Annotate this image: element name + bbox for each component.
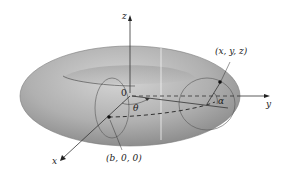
origin-label: 0 xyxy=(121,89,127,98)
alpha-label: α xyxy=(218,97,224,106)
z-axis-label: z xyxy=(122,12,127,21)
y-axis-label: y xyxy=(266,100,271,109)
z-axis-arrow-icon xyxy=(128,15,132,21)
torus-figure: z y x 0 θ α (x, y, z) (b, 0, 0) xyxy=(0,0,287,177)
point-xyz-text: (x, y, z) xyxy=(215,46,247,56)
x-axis-label: x xyxy=(52,157,57,166)
torus-drawing xyxy=(0,0,287,177)
point-xyz-label: (x, y, z) xyxy=(215,47,247,56)
y-axis-arrow-icon xyxy=(264,94,270,98)
point-b00-label: (b, 0, 0) xyxy=(106,154,142,163)
point-b00-text: (b, 0, 0) xyxy=(106,153,142,163)
point-b00 xyxy=(107,115,111,119)
theta-label: θ xyxy=(133,104,138,113)
